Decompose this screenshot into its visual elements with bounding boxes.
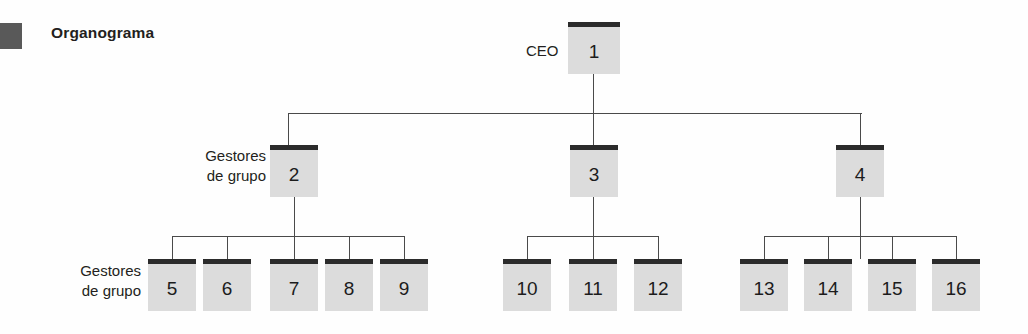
- edge-node3-to-bus: [593, 197, 594, 259]
- organogram-diagram: Organograma CEO 1 Gestores de grupo 2 3 …: [0, 0, 1028, 334]
- level3-label-line2: de grupo: [55, 281, 141, 301]
- node-6[interactable]: 6: [203, 259, 251, 311]
- edge-node4-to-bus: [860, 197, 861, 259]
- edge-bus-to-node12: [658, 236, 659, 259]
- level3-label: Gestores de grupo: [55, 261, 141, 301]
- node-2[interactable]: 2: [270, 145, 318, 197]
- node-3[interactable]: 3: [570, 145, 618, 197]
- level2-label: Gestores de grupo: [186, 146, 266, 186]
- node-12[interactable]: 12: [634, 259, 682, 311]
- node-7[interactable]: 7: [270, 259, 318, 311]
- edge-node1-to-bus: [593, 74, 594, 114]
- node-10[interactable]: 10: [503, 259, 551, 311]
- level3-label-line1: Gestores: [55, 261, 141, 281]
- node-1[interactable]: 1: [568, 22, 620, 74]
- node-13[interactable]: 13: [740, 259, 788, 311]
- ceo-label: CEO: [526, 42, 559, 59]
- node-11[interactable]: 11: [569, 259, 617, 311]
- edge-bus-to-node4: [860, 113, 861, 145]
- node-4[interactable]: 4: [836, 145, 884, 197]
- edge-bus-to-node3: [593, 113, 594, 145]
- edge-bus-to-node15: [892, 236, 893, 259]
- bus-node2-children: [172, 236, 405, 237]
- bus-node4-children: [764, 236, 956, 237]
- edge-bus-to-node14: [828, 236, 829, 259]
- edge-bus-to-node10: [527, 236, 528, 259]
- edge-node2-to-bus: [294, 197, 295, 259]
- edge-bus-to-node6: [227, 236, 228, 259]
- edge-bus-to-node9: [404, 236, 405, 259]
- edge-bus-to-node8: [349, 236, 350, 259]
- bus-level1-to-level2: [288, 113, 862, 114]
- node-5[interactable]: 5: [148, 259, 196, 311]
- section-marker-square: [0, 23, 22, 49]
- node-8[interactable]: 8: [325, 259, 373, 311]
- page-title: Organograma: [51, 24, 154, 42]
- node-16[interactable]: 16: [932, 259, 980, 311]
- node-9[interactable]: 9: [380, 259, 428, 311]
- edge-bus-to-node5: [172, 236, 173, 259]
- node-15[interactable]: 15: [868, 259, 916, 311]
- level2-label-line1: Gestores: [186, 146, 266, 166]
- edge-bus-to-node13: [764, 236, 765, 259]
- node-14[interactable]: 14: [804, 259, 852, 311]
- level2-label-line2: de grupo: [186, 166, 266, 186]
- bus-node3-children: [527, 236, 658, 237]
- edge-bus-to-node2: [288, 113, 289, 145]
- edge-bus-to-node16: [956, 236, 957, 259]
